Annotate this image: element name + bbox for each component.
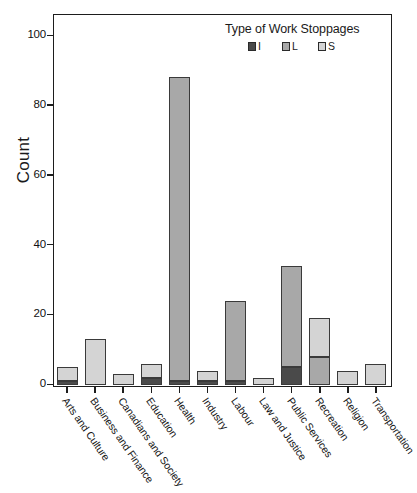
x-tick-mark — [235, 386, 237, 393]
y-tick-mark — [47, 384, 54, 386]
y-tick-label: 60 — [14, 168, 46, 180]
x-tick-mark — [263, 386, 265, 393]
bar-segment — [197, 381, 218, 385]
y-tick-label: 20 — [14, 307, 46, 319]
y-tick-label: 100 — [14, 28, 46, 40]
bar-segment — [57, 367, 78, 381]
legend-label: L — [292, 40, 298, 52]
legend-item-I: I — [248, 40, 261, 52]
bar-segment — [225, 301, 246, 382]
x-tick-mark — [319, 386, 321, 393]
y-tick-mark — [47, 244, 54, 246]
bar-segment — [309, 318, 330, 357]
y-tick-mark — [47, 35, 54, 37]
y-tick-mark — [47, 104, 54, 106]
bar-segment — [169, 381, 190, 385]
y-tick-label: 80 — [14, 98, 46, 110]
legend-item-S: S — [318, 40, 335, 52]
bar-segment — [225, 381, 246, 385]
legend-swatch-icon — [282, 42, 290, 51]
bar-segment — [85, 339, 106, 385]
x-tick-mark — [122, 386, 124, 393]
x-tick-mark — [151, 386, 153, 393]
x-axis-label: Labour — [229, 395, 257, 428]
bar-segment — [197, 371, 218, 382]
x-axis-label: Transportation — [369, 395, 417, 456]
legend-label: I — [258, 40, 261, 52]
bar-segment — [141, 364, 162, 378]
y-tick-label: 40 — [14, 238, 46, 250]
x-axis-label: Health — [173, 395, 200, 426]
bar-segment — [337, 371, 358, 385]
legend-item-L: L — [282, 40, 298, 52]
bar-segment — [253, 378, 274, 385]
bar-segment — [365, 364, 386, 385]
x-tick-mark — [207, 386, 209, 393]
legend-label: S — [328, 40, 335, 52]
x-tick-mark — [94, 386, 96, 393]
plot-area-frame — [53, 14, 392, 387]
y-tick-mark — [47, 174, 54, 176]
bar-segment — [57, 381, 78, 385]
y-tick-mark — [47, 314, 54, 316]
legend-swatch-icon — [318, 42, 326, 51]
bar-segment — [309, 357, 330, 385]
x-tick-mark — [375, 386, 377, 393]
legend-swatch-icon — [248, 42, 256, 51]
bar-segment — [281, 266, 302, 368]
bar-segment — [141, 378, 162, 385]
bar-segment — [281, 367, 302, 385]
bar-segment — [113, 374, 134, 385]
bar-segment — [169, 77, 190, 382]
x-axis-label: Religion — [341, 395, 372, 432]
x-tick-mark — [179, 386, 181, 393]
x-tick-mark — [291, 386, 293, 393]
x-tick-mark — [347, 386, 349, 393]
legend-title: Type of Work Stoppages — [225, 22, 359, 36]
x-tick-mark — [66, 386, 68, 393]
y-tick-label: 0 — [14, 377, 46, 389]
x-axis-label: Industry — [201, 395, 232, 432]
